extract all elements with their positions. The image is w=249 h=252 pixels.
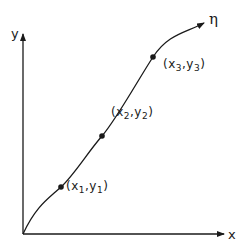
point-1-label: (x1,y1): [66, 180, 108, 195]
y-axis-label: y: [11, 27, 19, 40]
point-2-label: (x2,y2): [111, 106, 153, 121]
point-3-marker: [150, 54, 156, 60]
coordinate-diagram: [0, 0, 249, 252]
eta-curve: [23, 23, 204, 234]
curve-label-eta: η: [209, 12, 218, 27]
point-2-marker: [99, 133, 105, 139]
x-axis-label: x: [228, 228, 236, 241]
point-1-marker: [58, 184, 64, 190]
point-3-label: (x3,y3): [163, 58, 205, 73]
